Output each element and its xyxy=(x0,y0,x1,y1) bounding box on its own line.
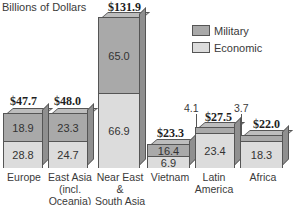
category-line: Vietnam xyxy=(145,171,195,183)
segment-economic: 6.9 xyxy=(148,156,189,168)
legend-item-military: Military xyxy=(192,22,262,39)
callout-military-value: 3.7 xyxy=(234,102,249,114)
total-label: $47.7 xyxy=(10,94,37,109)
category-line: Latin xyxy=(190,171,238,183)
category-line: Near East xyxy=(92,171,148,183)
category-line: Africa xyxy=(238,171,288,183)
callout-line xyxy=(241,114,242,136)
legend-item-economic: Economic xyxy=(192,39,262,56)
category-line: America xyxy=(190,183,238,195)
category-label: Vietnam xyxy=(145,171,195,183)
category-line: Oceania) xyxy=(46,195,94,205)
category-label: East Asia (incl. Oceania) xyxy=(46,171,94,205)
bar-africa: 18.3 xyxy=(240,130,290,169)
legend-label-military: Military xyxy=(214,25,249,37)
callout-line xyxy=(196,114,197,128)
segment-economic: 18.3 xyxy=(241,141,282,168)
segment-economic: 28.8 xyxy=(4,141,42,168)
category-label: Europe xyxy=(0,171,48,183)
legend: Military Economic xyxy=(192,22,262,56)
segment-military: 65.0 xyxy=(99,18,139,93)
bar-east-asia: 23.3 24.7 xyxy=(48,108,96,169)
category-label: Africa xyxy=(238,171,288,183)
bar-latin-america: 23.4 xyxy=(195,122,243,169)
segment-economic: 23.4 xyxy=(196,133,234,168)
bar-vietnam: 16.4 6.9 xyxy=(147,139,197,169)
total-label: $48.0 xyxy=(54,94,81,109)
y-axis-label: Billions of Dollars xyxy=(2,1,86,13)
total-label: $131.9 xyxy=(108,0,141,15)
category-line: (incl. xyxy=(46,183,94,195)
legend-label-economic: Economic xyxy=(214,42,262,54)
category-label: Near East & South Asia xyxy=(92,171,148,205)
bar-europe: 18.9 28.8 xyxy=(3,108,51,169)
economic-swatch xyxy=(192,42,210,53)
total-label: $23.3 xyxy=(157,126,184,141)
segment-military: 23.3 xyxy=(49,114,87,141)
callout-military-value: 4.1 xyxy=(184,102,199,114)
category-line: East Asia xyxy=(46,171,94,183)
total-label: $22.0 xyxy=(253,117,280,132)
total-label: $27.5 xyxy=(205,110,232,125)
segment-economic: 24.7 xyxy=(49,141,87,168)
category-line: South Asia xyxy=(92,195,148,205)
segment-military: 16.4 xyxy=(148,145,189,156)
segment-military: 18.9 xyxy=(4,114,42,141)
category-label: Latin America xyxy=(190,171,238,195)
bar-near-east-south-asia: 65.0 66.9 xyxy=(98,12,148,169)
category-line: & xyxy=(92,183,148,195)
military-swatch xyxy=(192,25,210,36)
segment-economic: 66.9 xyxy=(99,93,139,168)
category-line: Europe xyxy=(0,171,48,183)
